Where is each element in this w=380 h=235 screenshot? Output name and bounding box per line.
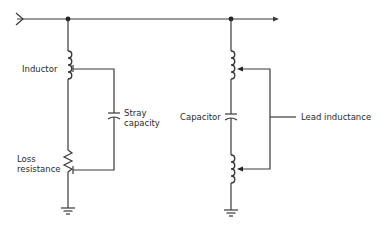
output-arrow-icon xyxy=(273,17,279,22)
ground-icon-right xyxy=(224,210,238,216)
pointer-arrow-bottom-icon xyxy=(237,167,243,172)
circuit-diagram: Inductor Stray capacity Loss resistance … xyxy=(0,0,380,235)
lead-inductance-label: Lead inductance xyxy=(301,112,371,122)
capacitor-label: Capacitor xyxy=(180,112,221,122)
inductor-label: Inductor xyxy=(22,64,58,74)
stray-capacity-label-1: Stray xyxy=(124,108,146,118)
ground-icon-left xyxy=(61,208,75,214)
right-branch xyxy=(224,19,296,216)
left-branch xyxy=(61,19,120,214)
loss-resistance-label-1: Loss xyxy=(17,154,36,164)
loss-resistance-label-2: resistance xyxy=(17,164,61,174)
resistor-icon xyxy=(64,150,72,172)
pointer-arrow-top-icon xyxy=(237,67,243,72)
inductor-icon xyxy=(68,51,72,79)
stray-capacity-label-2: capacity xyxy=(124,118,160,128)
lead-inductor-top-icon xyxy=(231,51,235,79)
lead-inductor-bottom-icon xyxy=(231,155,235,183)
